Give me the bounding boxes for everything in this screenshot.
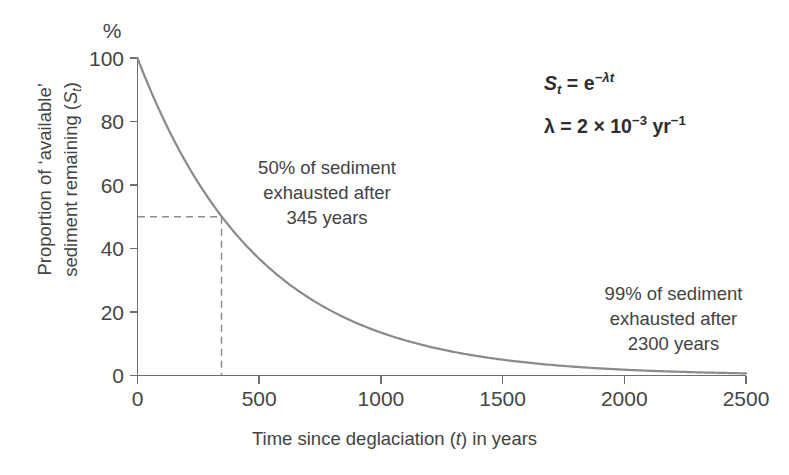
x-axis-title: Time since deglaciation (t) in years [0, 428, 789, 450]
formula-lambda-symbol: λ [544, 115, 555, 137]
y-axis-tick-labels: 0 20 40 60 80 100 [89, 47, 124, 388]
y-tick-label-40: 40 [101, 237, 124, 260]
y-axis-title-line2: sediment remaining (St) [58, 14, 91, 344]
x-tick-label-1500: 1500 [479, 387, 526, 410]
x-tick-label-2500: 2500 [723, 387, 770, 410]
annotation-50-percent: 50% of sediment exhausted after 345 year… [222, 155, 432, 230]
annotation-99-line3: 2300 years [566, 331, 781, 356]
y-axis-ticks [130, 58, 138, 376]
formula-unit: yr [652, 115, 670, 137]
x-tick-label-1000: 1000 [358, 387, 405, 410]
y-axis-title-line1: Proportion of ‘available’ [32, 14, 58, 344]
x-tick-label-0: 0 [132, 387, 144, 410]
formula-lambda-value: λ = 2 × 10−3 yr−1 [544, 105, 686, 142]
formula-rhs-exponent: −λt [595, 70, 615, 85]
y-tick-label-100: 100 [89, 47, 124, 70]
formula-block: St = e−λt λ = 2 × 10−3 yr−1 [544, 62, 686, 142]
y-axis-title-symbol: S [60, 92, 81, 104]
formula-rhs-base: e [584, 72, 595, 94]
formula-lhs-symbol: S [544, 72, 557, 94]
annotation-50-line1: 50% of sediment [222, 155, 432, 180]
x-tick-label-500: 500 [242, 387, 277, 410]
y-tick-label-0: 0 [112, 364, 124, 387]
formula-power-exponent: −3 [632, 113, 647, 128]
y-axis-unit-label: % [103, 19, 122, 42]
x-axis-tick-labels: 0 500 1000 1500 2000 2500 [132, 387, 770, 410]
x-tick-label-2000: 2000 [601, 387, 648, 410]
y-tick-label-20: 20 [101, 301, 124, 324]
formula-equals-2: = [560, 115, 571, 137]
formula-equals-1: = [567, 72, 578, 94]
annotation-50-line3: 345 years [222, 205, 432, 230]
y-axis-title-subscript: t [70, 88, 84, 92]
chart-figure: 0 20 40 60 80 100 % 0 500 1000 1500 2000… [0, 0, 789, 475]
y-axis-title: Proportion of ‘available’ sediment remai… [32, 14, 91, 344]
annotation-99-percent: 99% of sediment exhausted after 2300 yea… [566, 281, 781, 356]
annotation-99-line1: 99% of sediment [566, 281, 781, 306]
x-axis-title-variable: t [456, 428, 461, 449]
formula-unit-exponent: −1 [671, 113, 686, 128]
annotation-99-line2: exhausted after [566, 306, 781, 331]
formula-power-base: 10 [610, 115, 632, 137]
annotation-50-line2: exhausted after [222, 180, 432, 205]
y-axis-title-line2-suffix: ) [60, 82, 81, 88]
y-tick-label-60: 60 [101, 174, 124, 197]
formula-lhs-subscript: t [557, 82, 561, 97]
y-tick-label-80: 80 [101, 110, 124, 133]
formula-times-sign: × [593, 115, 604, 137]
y-axis-title-line2-prefix: sediment remaining ( [60, 104, 81, 277]
formula-decay-equation: St = e−λt [544, 62, 686, 105]
x-axis-ticks [138, 376, 747, 385]
formula-coefficient: 2 [577, 115, 588, 137]
